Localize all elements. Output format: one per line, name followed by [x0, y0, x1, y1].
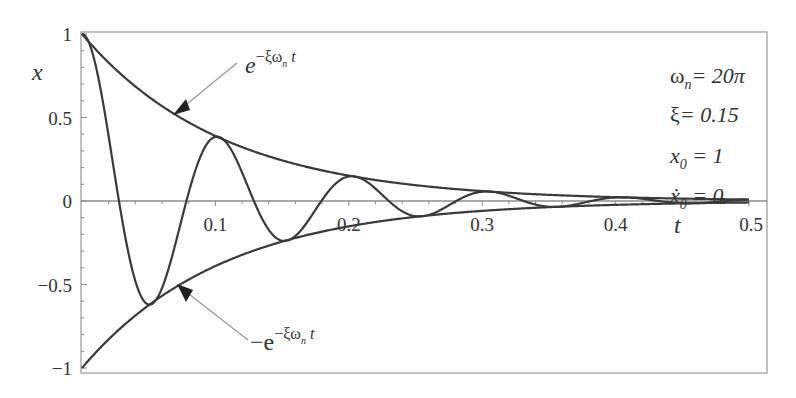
- x-tick-label: 0.4: [604, 214, 628, 235]
- svg-text:−e−ξωn t: −e−ξωn t: [250, 325, 315, 355]
- y-tick-label: 0: [63, 191, 73, 212]
- parameter-3: ẋ0 = 0: [669, 183, 724, 212]
- parameter-0: ωn= 20π: [670, 63, 746, 92]
- parameter-1: ξ= 0.15: [670, 102, 739, 127]
- upper-envelope-annotation: e−ξωn t: [245, 48, 296, 78]
- x-tick-label: 0.1: [204, 214, 228, 235]
- upper-arrowhead-icon: [173, 99, 190, 115]
- y-tick-label: 0.5: [48, 108, 72, 129]
- y-tick-label: −1: [52, 358, 72, 379]
- lower-envelope-annotation: −e−ξωn t: [250, 325, 315, 355]
- lower-envelope-curve: [82, 203, 749, 369]
- parameter-legend: ωn= 20πξ= 0.15x0 = 1ẋ0 = 0: [669, 63, 746, 212]
- y-axis-label: x: [31, 59, 43, 85]
- y-axis-ticks: 10.50−0.5−1: [38, 24, 87, 379]
- upper-envelope-curve: [82, 34, 749, 200]
- upper-annotation-arrow: [182, 63, 237, 108]
- lower-arrowhead-icon: [177, 284, 193, 302]
- y-tick-label: −0.5: [38, 275, 72, 296]
- x-axis-label: t: [674, 212, 682, 238]
- svg-text:e−ξωn t: e−ξωn t: [245, 48, 296, 78]
- y-tick-label: 1: [63, 24, 73, 45]
- x-tick-label: 0.3: [470, 214, 494, 235]
- lower-annotation-arrow: [185, 291, 248, 340]
- response-curve: [82, 34, 749, 305]
- parameter-2: x0 = 1: [669, 143, 724, 172]
- damped-vibration-chart: 10.50−0.5−1 0.10.20.30.40.5 x t e−ξωn t …: [0, 0, 796, 398]
- x-tick-label: 0.5: [739, 214, 763, 235]
- x-axis-ticks: 0.10.20.30.40.5: [109, 201, 763, 235]
